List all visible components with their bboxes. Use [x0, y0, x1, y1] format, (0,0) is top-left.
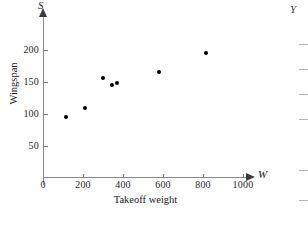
x-axis-tick-label: 200 [68, 179, 98, 190]
x-axis-tick [163, 174, 164, 178]
y-axis-tick [44, 82, 48, 83]
data-point [101, 76, 105, 80]
data-point [64, 115, 68, 119]
x-axis-tick [123, 174, 124, 178]
data-point [83, 106, 87, 110]
y-axis-tick [44, 146, 48, 147]
adjacent-figure-tick [299, 200, 308, 201]
adjacent-figure-y-axis-variable: Y [290, 3, 296, 15]
x-axis-tick [83, 174, 84, 178]
x-axis-tick-label: 1000 [228, 179, 258, 190]
x-axis-tick-label: 400 [108, 179, 138, 190]
data-point [115, 81, 119, 85]
y-axis-line [43, 14, 44, 185]
adjacent-figure-tick [299, 119, 308, 120]
y-axis-variable-label: S [38, 0, 44, 11]
scatter-plot-figure: W S 0200400600800100050100150200 Takeoff… [0, 0, 308, 227]
adjacent-figure-tick [299, 69, 308, 70]
y-axis-tick [44, 114, 48, 115]
y-axis-title: Wingspan [8, 49, 19, 119]
adjacent-figure-clipped: Y [289, 0, 308, 227]
data-point [204, 51, 208, 55]
x-axis-line [43, 177, 248, 178]
x-axis-variable-label: W [258, 168, 267, 180]
x-axis-tick [243, 174, 244, 178]
adjacent-figure-tick [299, 170, 308, 171]
y-axis-tick-label: 50 [13, 140, 39, 151]
y-axis-tick [44, 50, 48, 51]
data-point [157, 70, 161, 74]
x-axis-tick-label: 800 [188, 179, 218, 190]
adjacent-figure-tick [299, 44, 308, 45]
x-axis-tick-label: 0 [28, 179, 58, 190]
data-point [110, 83, 114, 87]
x-axis-tick-label: 600 [148, 179, 178, 190]
x-axis-tick [203, 174, 204, 178]
x-axis-title: Takeoff weight [43, 194, 248, 205]
adjacent-figure-tick [299, 94, 308, 95]
